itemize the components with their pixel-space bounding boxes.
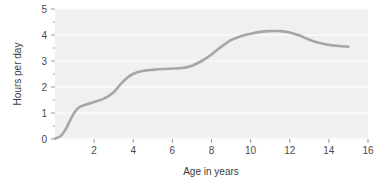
x-tick-label: 14 <box>323 145 335 156</box>
x-axis-tick-marks <box>94 139 368 143</box>
x-axis-title: Age in years <box>183 166 239 177</box>
y-axis-title: Hours per day <box>12 43 23 106</box>
y-tick-label: 1 <box>41 108 47 119</box>
y-axis-minor-tick-marks <box>53 22 56 126</box>
line-chart: 012345 246810121416 Age in years Hours p… <box>0 0 382 183</box>
chart-figure: 012345 246810121416 Age in years Hours p… <box>0 0 382 183</box>
y-tick-label: 3 <box>41 56 47 67</box>
x-tick-label: 10 <box>245 145 257 156</box>
x-axis-tick-labels: 246810121416 <box>91 145 374 156</box>
x-tick-label: 8 <box>209 145 215 156</box>
y-tick-label: 5 <box>41 4 47 15</box>
x-tick-label: 4 <box>130 145 136 156</box>
y-tick-label: 0 <box>41 134 47 145</box>
x-tick-label: 16 <box>362 145 374 156</box>
plot-background <box>55 9 368 139</box>
y-tick-label: 2 <box>41 82 47 93</box>
x-tick-label: 2 <box>91 145 97 156</box>
y-tick-label: 4 <box>41 30 47 41</box>
x-tick-label: 12 <box>284 145 296 156</box>
y-axis-tick-labels: 012345 <box>41 4 47 145</box>
x-tick-label: 6 <box>170 145 176 156</box>
